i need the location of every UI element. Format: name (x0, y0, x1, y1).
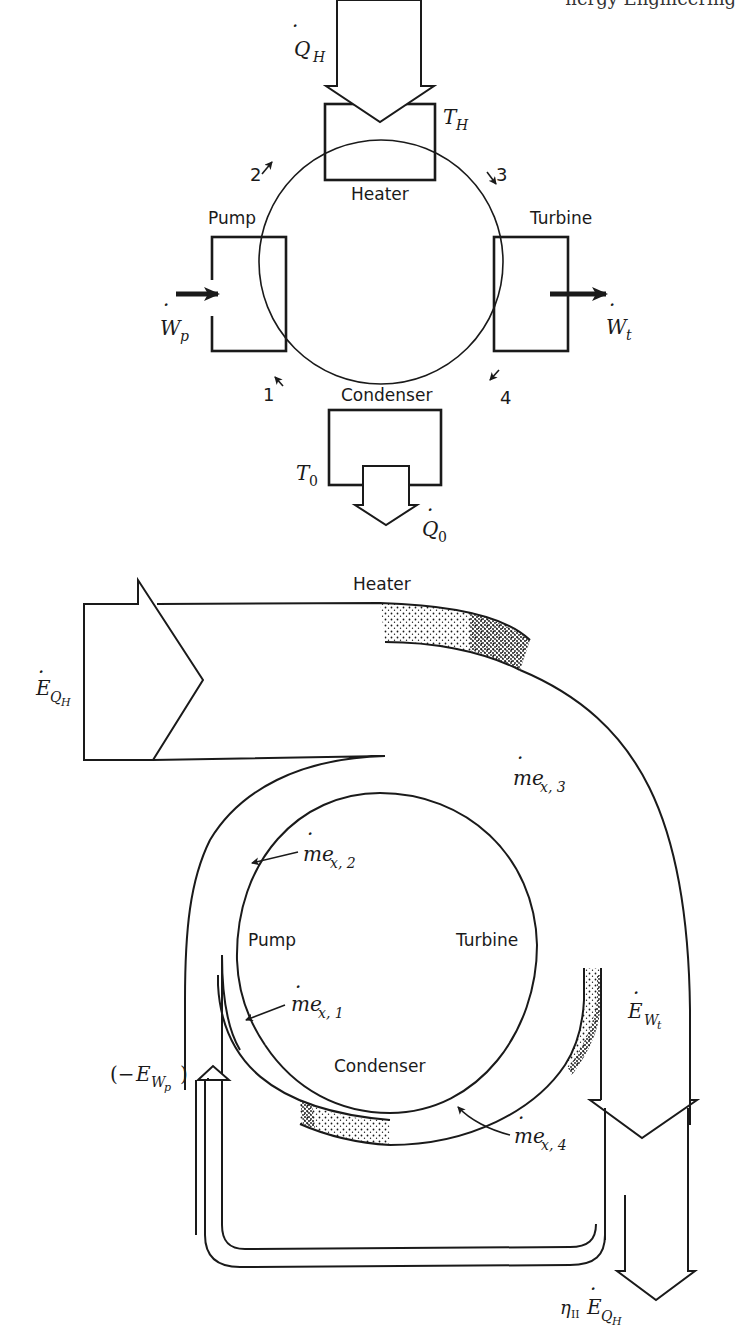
pump-work-label: · W p (160, 293, 189, 344)
state-1-label: 1 (263, 384, 274, 405)
svg-text:H: H (455, 117, 469, 133)
exergy-pump-label: Pump (248, 930, 296, 950)
hot-temperature-label: T H (443, 105, 469, 133)
flow-arrow-1-icon (275, 377, 283, 386)
exergy-turbine-label: Turbine (455, 930, 518, 950)
exergy-flow-diagram: Heater Pump Turbine Condenser · E Q H · … (35, 574, 697, 1328)
svg-text:H: H (611, 1315, 622, 1328)
heater-label: Heater (351, 184, 409, 204)
flow-mex4-label: · me x, 4 (514, 1106, 567, 1153)
exergy-condenser-label: Condenser (334, 1056, 425, 1076)
svg-text:·: · (292, 14, 298, 38)
pump-exergy-arrow-icon (198, 1066, 229, 1080)
exergy-input-label: · E Q H (35, 660, 71, 709)
state-3-label: 3 (496, 164, 507, 185)
svg-text:p: p (180, 328, 189, 344)
svg-text:E: E (627, 999, 643, 1023)
svg-text:η: η (560, 1297, 571, 1318)
turbine-exergy-label: · E W t (627, 981, 662, 1032)
svg-text:t: t (626, 327, 632, 343)
svg-text:Q: Q (294, 37, 310, 61)
heat-input-label: · Q H (292, 14, 326, 65)
svg-text:H: H (60, 696, 71, 709)
flow-arrow-4-icon (490, 370, 499, 380)
svg-text:E: E (35, 676, 51, 700)
condenser-label: Condenser (341, 385, 432, 405)
turbine-exergy-arrow-icon (590, 1100, 697, 1138)
svg-text:): ) (180, 1062, 188, 1086)
svg-text:H: H (312, 49, 326, 65)
svg-text:p: p (164, 1081, 171, 1094)
cycle-schematic: Heater Pump Turbine Condenser 2 3 4 1 · … (160, 0, 632, 545)
svg-text:0: 0 (309, 473, 318, 489)
exergy-input-arrow-icon (84, 580, 203, 760)
flow-mex2-label: · me x, 2 (303, 822, 356, 871)
svg-text:W: W (160, 316, 182, 340)
svg-text:0: 0 (438, 529, 447, 545)
svg-text:·: · (609, 293, 615, 317)
svg-text:t: t (657, 1019, 662, 1032)
turbine-work-label: · W t (606, 293, 632, 343)
cold-temperature-label: T 0 (296, 461, 318, 489)
exergy-heater-label: Heater (353, 574, 411, 594)
pump-label: Pump (208, 208, 256, 228)
pump-work-loop-outer (205, 1075, 605, 1267)
stream-mex3-outer-edge (520, 670, 690, 1125)
net-exergy-output-arrow-icon (617, 1195, 695, 1300)
pump-box (212, 237, 286, 351)
flow-arrow-3-icon (487, 172, 496, 184)
state-2-label: 2 (250, 164, 261, 185)
svg-text:x, 1: x, 1 (318, 1005, 344, 1021)
diagram-canvas: Heater Pump Turbine Condenser 2 3 4 1 · … (0, 0, 736, 1332)
turbine-label: Turbine (529, 208, 592, 228)
state-4-label: 4 (500, 387, 511, 408)
heat-rejection-arrow-icon (355, 466, 417, 525)
svg-text:(−: (− (110, 1062, 135, 1086)
svg-text:W: W (606, 315, 628, 339)
svg-text:E: E (135, 1062, 151, 1086)
working-fluid-loop (259, 140, 503, 384)
svg-text:Q: Q (422, 517, 438, 541)
svg-text:x, 4: x, 4 (541, 1137, 567, 1153)
flow-mex3-label: · me x, 3 (513, 746, 566, 795)
pump-exergy-label: (− E W p ) (110, 1062, 188, 1094)
flow-mex1-label: · me x, 1 (291, 975, 344, 1021)
pointer-mex2-icon (252, 852, 298, 863)
svg-text:E: E (586, 1295, 602, 1319)
svg-text:II: II (571, 1308, 580, 1321)
svg-text:x, 2: x, 2 (330, 855, 356, 871)
stream-mex2-outer-edge (153, 756, 385, 1090)
svg-text:x, 3: x, 3 (540, 779, 566, 795)
svg-text:·: · (163, 293, 169, 317)
heat-rejection-label: · Q 0 (422, 498, 447, 545)
flow-arrow-2-icon (262, 162, 272, 174)
net-exergy-output-label: η II · E Q H (560, 1277, 622, 1328)
pointer-mex4-icon (458, 1107, 510, 1135)
pointer-mex1-icon (246, 1005, 285, 1020)
pump-work-loop-inner (222, 1075, 596, 1249)
